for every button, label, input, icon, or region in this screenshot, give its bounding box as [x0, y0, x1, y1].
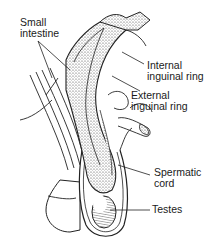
label-small-intestine: Small intestine: [20, 17, 59, 39]
hernia-illustration: Small intestine Internal inguinal ring E…: [0, 0, 220, 246]
label-spermatic-cord: Spermatic cord: [154, 167, 201, 189]
label-testes: Testes: [152, 204, 182, 215]
label-external-inguinal-ring: External inguinal ring: [131, 90, 188, 112]
label-internal-inguinal-ring: Internal inguinal ring: [147, 60, 204, 82]
penis-outline: [46, 180, 80, 232]
